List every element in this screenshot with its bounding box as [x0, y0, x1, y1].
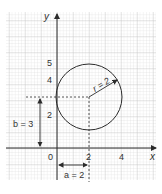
a-label: a = 2: [64, 170, 84, 180]
x-tick-4: 4: [119, 152, 124, 162]
x-axis-label: x: [149, 151, 156, 162]
grid-background: [6, 12, 156, 180]
y-axis-label: y: [43, 11, 50, 22]
coordinate-grid-diagram: y x 0 2 4 5 4 2 b = 3 a = 2 r = 2: [0, 0, 162, 194]
b-label: b = 3: [13, 119, 33, 129]
x-tick-2: 2: [86, 152, 91, 162]
y-tick-5: 5: [47, 58, 52, 68]
origin-label: 0: [48, 152, 53, 162]
y-tick-4: 4: [47, 75, 52, 85]
y-tick-2: 2: [47, 110, 52, 120]
